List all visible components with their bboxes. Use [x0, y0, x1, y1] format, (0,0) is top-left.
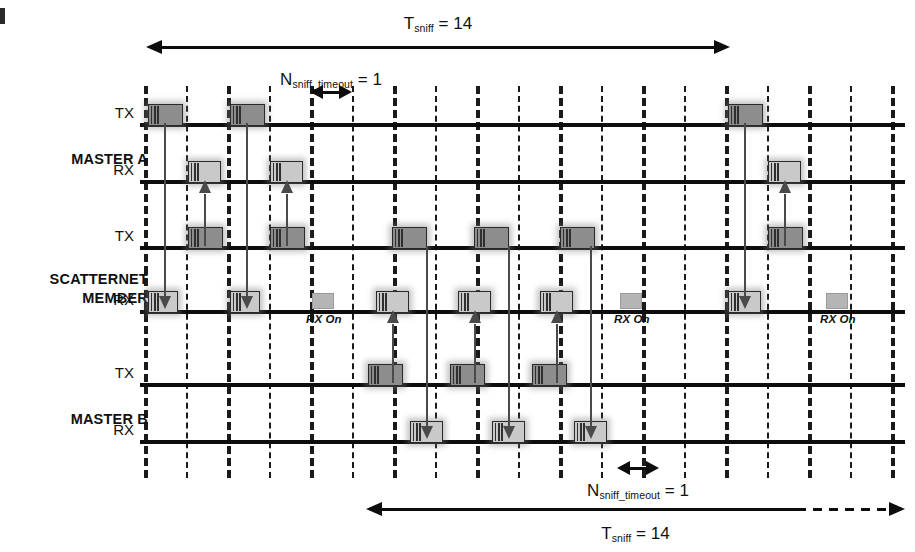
grid-line-18: [891, 86, 895, 478]
packet-stripes: [191, 229, 200, 247]
span-arrowhead-right-tsniff-bottom: [889, 502, 905, 516]
connector-arrowhead-up-4: [779, 180, 791, 193]
span-line-nsniff-top: [323, 91, 339, 94]
grid-line-2: [227, 86, 231, 478]
packet-stripes: [771, 229, 780, 247]
rx-on-block-2: [826, 293, 848, 309]
connector-arrowhead-down-5: [739, 296, 751, 309]
span-label-main: T: [601, 524, 611, 543]
connector-line-8: [556, 324, 558, 383]
row-label-master-b-tx: TX: [14, 365, 134, 380]
span-label-subscript: sniff: [414, 22, 434, 34]
packet-stripes: [543, 293, 552, 311]
packet-stripes: [771, 163, 780, 181]
connector-arrowhead-up-3: [281, 180, 293, 193]
span-label-main: T: [404, 14, 414, 33]
connector-line-3: [286, 194, 288, 246]
span-line-dashed-tsniff-bottom: [797, 508, 889, 511]
connector-line-10: [508, 246, 510, 426]
span-label-tsniff-bottom: Tsniff = 14: [601, 524, 669, 544]
connector-line-9: [426, 246, 428, 426]
grid-line-5: [352, 86, 354, 478]
rx-on-block-0: [312, 293, 334, 309]
packet-stripes: [535, 366, 544, 384]
span-line-nsniff-bottom: [630, 467, 646, 470]
grid-line-6: [393, 86, 397, 478]
grid-line-14: [725, 86, 729, 478]
connector-line-7: [474, 324, 476, 383]
grid-line-1: [186, 86, 188, 478]
connector-arrowhead-up-7: [469, 310, 481, 323]
grid-line-16: [808, 86, 812, 478]
grid-line-15: [767, 86, 769, 478]
span-label-main: N: [280, 70, 292, 89]
rx-on-label-0: RX On: [306, 313, 342, 325]
grid-line-10: [559, 86, 563, 478]
timing-diagram-canvas: MASTER ASCATTERNETMEMBERMASTER BTXRXTXRX…: [0, 0, 915, 552]
packet-stripes: [395, 229, 404, 247]
span-label-nsniff-top: Nsniff_timeout = 1: [280, 70, 382, 90]
span-label-subscript: sniff: [612, 532, 632, 544]
grid-line-4: [310, 86, 314, 478]
packet-stripes: [191, 163, 200, 181]
row-label-scatternet-tx: TX: [14, 228, 134, 243]
packet-stripes: [453, 366, 462, 384]
span-arrowhead-left-nsniff-bottom: [617, 461, 630, 475]
row-label-master-a-rx: RX: [14, 162, 134, 177]
packet-master-b-tx-1: [450, 364, 485, 386]
span-label-tsniff-top: Tsniff = 14: [404, 14, 472, 34]
packet-master-b-tx-0: [368, 364, 403, 386]
span-arrowhead-left-tsniff-top: [146, 40, 162, 54]
packet-stripes: [273, 163, 282, 181]
grid-line-12: [642, 86, 646, 478]
grid-line-9: [518, 86, 520, 478]
connector-arrowhead-down-1: [241, 296, 253, 309]
connector-line-4: [784, 194, 786, 246]
packet-stripes: [731, 106, 740, 124]
row-label-scatternet-rx: RX: [14, 292, 134, 307]
connector-line-0: [164, 123, 166, 296]
span-label-tail: = 1: [660, 481, 689, 500]
grid-line-11: [601, 86, 603, 478]
packet-stripes: [477, 229, 486, 247]
span-line-tsniff-bottom: [382, 508, 797, 511]
connector-arrowhead-up-8: [551, 310, 563, 323]
connector-arrowhead-down-9: [421, 426, 433, 439]
span-label-subscript: sniff_timeout: [599, 489, 660, 501]
span-label-tail: = 1: [353, 70, 382, 89]
span-arrowhead-right-tsniff-top: [714, 40, 730, 54]
connector-line-2: [204, 194, 206, 246]
group-label-scatternet-line1: SCATTERNET: [18, 272, 148, 287]
grid-line-3: [269, 86, 271, 478]
packet-stripes: [461, 293, 470, 311]
span-arrowhead-left-tsniff-bottom: [366, 502, 382, 516]
span-label-nsniff-bottom: Nsniff_timeout = 1: [587, 481, 689, 501]
span-label-main: N: [587, 481, 599, 500]
connector-arrowhead-down-0: [159, 296, 171, 309]
span-label-tail: = 14: [631, 524, 669, 543]
grid-line-13: [684, 86, 686, 478]
connector-line-5: [744, 123, 746, 296]
packet-scatternet-tx-2: [392, 227, 427, 249]
grid-line-8: [476, 86, 480, 478]
connector-line-1: [246, 123, 248, 296]
packet-stripes: [233, 106, 242, 124]
connector-arrowhead-up-6: [387, 310, 399, 323]
packet-scatternet-tx-3: [474, 227, 509, 249]
rx-on-label-1: RX On: [614, 313, 650, 325]
packet-master-b-tx-2: [532, 364, 567, 386]
rx-on-block-1: [620, 293, 642, 309]
connector-arrowhead-down-11: [585, 426, 597, 439]
page-edge-mark: [0, 8, 5, 24]
connector-line-6: [392, 324, 394, 383]
connector-line-11: [590, 246, 592, 426]
packet-stripes: [371, 366, 380, 384]
packet-stripes: [379, 293, 388, 311]
row-label-master-a-tx: TX: [14, 105, 134, 120]
grid-line-17: [850, 86, 852, 478]
span-arrowhead-right-nsniff-bottom: [646, 461, 659, 475]
row-label-master-b-rx: RX: [14, 422, 134, 437]
packet-stripes: [273, 229, 282, 247]
span-label-subscript: sniff_timeout: [292, 78, 353, 90]
span-line-tsniff-top: [162, 46, 714, 49]
